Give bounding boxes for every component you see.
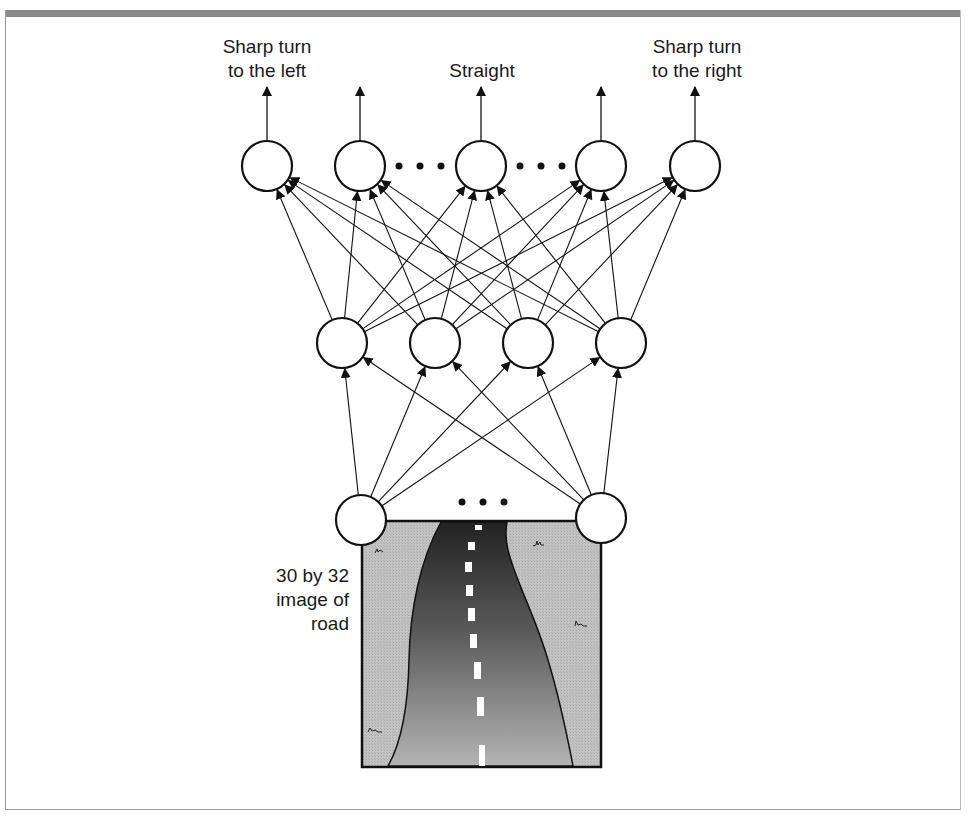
connection-arrow xyxy=(538,367,591,495)
input-node-in-1 xyxy=(336,495,386,545)
network-nodes xyxy=(242,141,720,545)
connection-arrow xyxy=(357,186,465,323)
connection-arrow xyxy=(345,369,359,495)
label-input-line2: image of xyxy=(276,589,350,610)
edges-input-to-hidden xyxy=(345,358,618,506)
connection-arrow xyxy=(497,186,605,323)
output-node-out-2 xyxy=(335,141,385,191)
input-label: 30 by 32 image of road xyxy=(276,565,350,634)
edges-hidden-to-output xyxy=(277,178,685,332)
connection-arrow xyxy=(604,192,618,318)
output-labels: Sharp turn to the left Straight Sharp tu… xyxy=(223,36,743,81)
connection-arrow xyxy=(604,369,618,493)
label-input-line3: road xyxy=(311,613,349,634)
output-arrows xyxy=(267,87,695,141)
hidden-node-hid-2 xyxy=(410,318,460,368)
output-node-out-5 xyxy=(670,141,720,191)
connection-arrow xyxy=(631,190,685,320)
output-node-out-1 xyxy=(242,141,292,191)
output-node-out-3 xyxy=(456,141,506,191)
connection-arrow xyxy=(364,358,581,504)
label-sharp-right-line1: Sharp turn xyxy=(653,36,742,57)
label-input-line1: 30 by 32 xyxy=(276,565,349,586)
connection-arrow xyxy=(277,190,332,320)
label-straight: Straight xyxy=(449,60,515,81)
neural-network-diagram: Sharp turn to the left Straight Sharp tu… xyxy=(0,0,967,821)
connection-arrow xyxy=(371,367,425,497)
label-sharp-left-line2: to the left xyxy=(228,60,307,81)
connection-arrow xyxy=(382,358,600,506)
label-sharp-right-line2: to the right xyxy=(652,60,742,81)
input-node-in-2 xyxy=(576,493,626,543)
hidden-node-hid-1 xyxy=(317,318,367,368)
road-image xyxy=(362,521,601,767)
output-node-out-4 xyxy=(576,141,626,191)
hidden-node-hid-3 xyxy=(503,318,553,368)
hidden-node-hid-4 xyxy=(596,318,646,368)
connection-arrow xyxy=(538,190,592,320)
label-sharp-left-line1: Sharp turn xyxy=(223,36,312,57)
connection-arrow xyxy=(289,181,508,329)
